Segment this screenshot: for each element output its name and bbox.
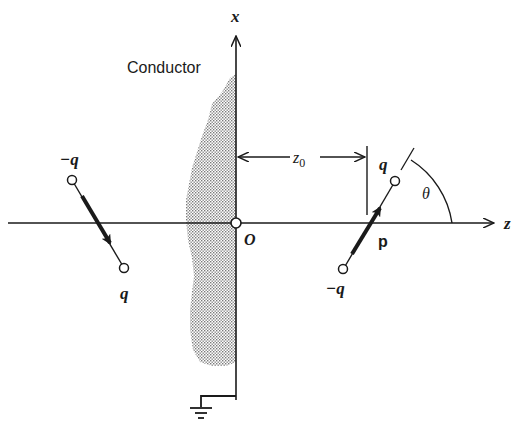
- z-axis-label: z: [503, 214, 511, 233]
- dipole-image-diagram: Conductor x z O z0 θ p q −q −q q: [0, 0, 522, 431]
- image-negative-charge-label: −q: [60, 150, 79, 169]
- x-axis-label: x: [230, 7, 240, 26]
- origin-marker: [231, 218, 241, 228]
- conductor-label: Conductor: [127, 59, 201, 76]
- real-negative-charge-label: −q: [326, 279, 345, 298]
- theta-label: θ: [422, 185, 430, 202]
- image-positive-charge: [120, 264, 129, 273]
- dipole-direction-tick: [401, 148, 414, 170]
- origin-label: O: [244, 231, 256, 248]
- real-dipole-moment-arrow: [352, 208, 380, 254]
- image-negative-charge: [68, 176, 77, 185]
- conductor-region: [186, 74, 236, 366]
- theta-arc: [411, 160, 452, 223]
- ground-wire: [201, 396, 236, 407]
- real-negative-charge: [339, 265, 348, 274]
- image-dipole-moment-arrow: [82, 196, 110, 243]
- image-positive-charge-label: q: [120, 284, 129, 303]
- z0-label: z0: [292, 149, 305, 170]
- real-positive-charge-label: q: [379, 155, 388, 174]
- dipole-moment-label: p: [378, 233, 388, 250]
- ground-icon: [190, 408, 212, 418]
- real-positive-charge: [391, 177, 400, 186]
